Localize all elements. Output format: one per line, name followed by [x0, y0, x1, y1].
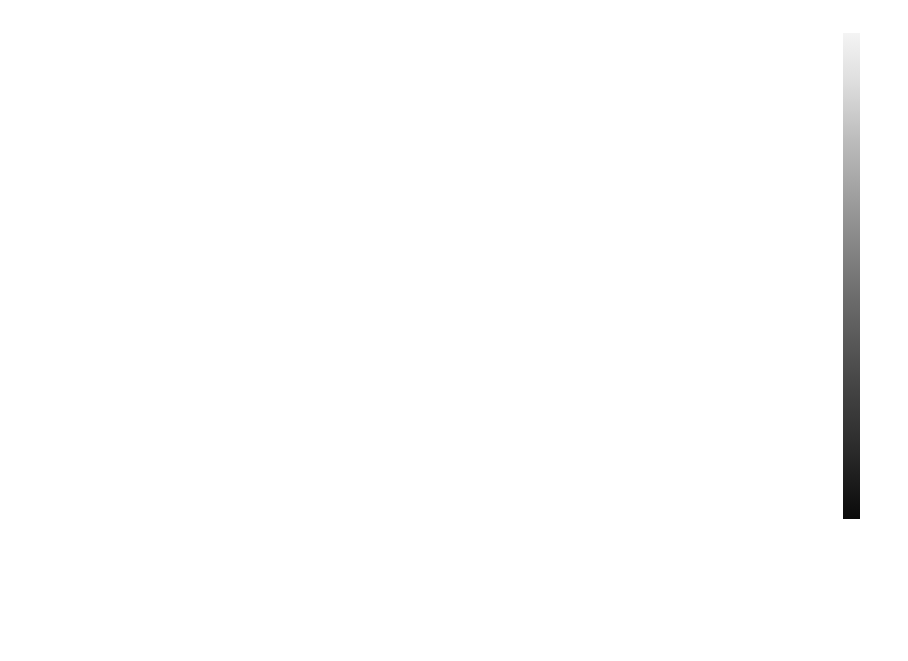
- heatmap-figure: [0, 0, 908, 661]
- correlation-matrix: [130, 33, 818, 519]
- heatmap-plot-area: [130, 33, 818, 519]
- colorbar-gradient: [843, 33, 860, 519]
- x-axis-labels: [130, 519, 818, 659]
- y-axis-labels: [0, 33, 126, 519]
